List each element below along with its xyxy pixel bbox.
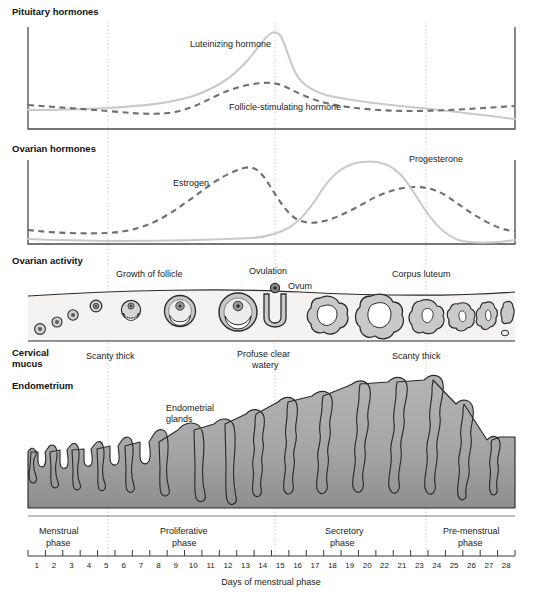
panel-title-cervical-mucus-line1: Cervical [12, 347, 49, 358]
pituitary-axis-frame [28, 27, 515, 129]
day-axis-tick-label: 20 [363, 561, 372, 570]
day-axis-tick-label: 8 [156, 561, 161, 570]
day-axis-tick-label: 2 [52, 561, 57, 570]
day-axis-tick-label: 10 [189, 561, 198, 570]
label-luteinizing-hormone: Luteinizing hormone [190, 39, 271, 49]
day-axis: 1234567891011121314151617181920222123242… [28, 550, 515, 587]
day-axis-tick-label: 7 [139, 561, 144, 570]
label-growth-of-follicle: Growth of follicle [116, 269, 183, 279]
label-estrogen: Estrogen [173, 178, 209, 188]
day-axis-tick-label: 5 [104, 561, 109, 570]
curve-estrogen [28, 167, 515, 233]
phase-label-proliferative-line1: Proliferative [160, 526, 208, 536]
phase-label-secretory-line2: phase [330, 538, 355, 548]
growing-follicle [165, 296, 196, 327]
day-axis-ticks [28, 550, 515, 556]
endometrium-tissue [28, 375, 515, 508]
day-axis-title: Days of menstrual phase [221, 577, 321, 587]
label-mucus-profuse-line2: watery [251, 360, 279, 370]
graafian-follicle [219, 293, 257, 331]
day-axis-tick-label: 14 [258, 561, 267, 570]
primordial-follicle-2 [52, 317, 62, 327]
day-axis-tick-label: 18 [328, 561, 337, 570]
menstrual-cycle-figure: Pituitary hormones Luteinizing hormone F… [0, 0, 534, 593]
panel-endometrium: Endometrium Endometrial glands [12, 375, 515, 508]
panel-title-cervical-mucus-line2: mucus [12, 358, 43, 369]
day-axis-tick-label: 26 [467, 561, 476, 570]
phase-band: Menstrual phase Proliferative phase Secr… [28, 516, 515, 548]
ovum [270, 283, 279, 292]
figure-canvas: Pituitary hormones Luteinizing hormone F… [0, 0, 534, 593]
panel-pituitary-hormones: Pituitary hormones Luteinizing hormone F… [12, 6, 515, 129]
primordial-follicle-1 [35, 324, 46, 335]
label-endometrial-glands-line1: Endometrial [166, 403, 214, 413]
secondary-follicle [121, 300, 140, 320]
day-axis-tick-label: 1 [34, 561, 39, 570]
panel-title-pituitary: Pituitary hormones [12, 6, 99, 17]
label-corpus-luteum: Corpus luteum [392, 269, 451, 279]
day-axis-tick-label: 13 [241, 561, 250, 570]
label-lh-line1: Luteinizing hormone [190, 39, 271, 49]
label-mucus-scanty-thick-early: Scanty thick [86, 351, 135, 361]
day-axis-tick-label: 19 [345, 561, 354, 570]
day-axis-tick-label: 3 [69, 561, 74, 570]
corpus-albicans-1 [447, 303, 475, 331]
day-axis-tick-label: 28 [502, 561, 511, 570]
curve-progesterone [28, 162, 515, 243]
day-axis-tick-label: 12 [224, 561, 233, 570]
panel-title-endometrium: Endometrium [12, 380, 73, 391]
panel-title-ovarian-hormones: Ovarian hormones [12, 143, 96, 154]
label-endometrial-glands-line2: glands [166, 414, 193, 424]
day-axis-tick-label: 16 [293, 561, 302, 570]
panel-title-ovarian-activity: Ovarian activity [12, 255, 83, 266]
panel-cervical-mucus: Cervical mucus Scanty thick Profuse clea… [12, 347, 441, 370]
day-axis-tick-label: 17 [311, 561, 320, 570]
day-axis-tick-label: 25 [450, 561, 459, 570]
primary-follicle-2 [90, 300, 102, 312]
day-axis-tick-label: 22 [380, 561, 389, 570]
day-axis-tick-label: 9 [174, 561, 179, 570]
day-axis-tick-label: 4 [87, 561, 92, 570]
panel-ovarian-hormones: Ovarian hormones Estrogen Progesterone [12, 143, 515, 244]
phase-label-proliferative-line2: phase [172, 538, 197, 548]
phase-label-pre-menstrual-line2: phase [458, 538, 483, 548]
label-follicle-stimulating-hormone: Follicle-stimulating hormone [229, 102, 341, 112]
phase-label-menstrual-line2: phase [46, 538, 71, 548]
phase-label-pre-menstrual-line1: Pre-menstrual [443, 526, 500, 536]
phase-label-menstrual-line1: Menstrual [39, 526, 79, 536]
day-axis-tick-label: 11 [206, 561, 215, 570]
day-axis-tick-label: 24 [432, 561, 441, 570]
primary-follicle-1 [68, 310, 78, 320]
label-ovulation: Ovulation [249, 266, 287, 276]
day-axis-tick-label: 23 [415, 561, 424, 570]
label-mucus-profuse-line1: Profuse clear [237, 349, 290, 359]
corpus-albicans-remnant [501, 330, 508, 336]
day-axis-tick-labels: 1234567891011121314151617181920222123242… [34, 561, 511, 570]
day-axis-tick-label: 15 [276, 561, 285, 570]
day-axis-tick-label: 27 [484, 561, 493, 570]
day-axis-tick-label: 6 [121, 561, 126, 570]
label-progesterone: Progesterone [409, 154, 463, 164]
phase-label-secretory-line1: Secretory [325, 526, 364, 536]
label-ovum: Ovum [288, 281, 312, 291]
ovarian-hormones-axis-frame [28, 160, 515, 244]
label-mucus-scanty-thick-late: Scanty thick [392, 351, 441, 361]
day-axis-tick-label: 21 [397, 561, 406, 570]
panel-ovarian-activity: Ovarian activity Growth of follicle Ovul… [12, 255, 515, 341]
label-fsh-line1: Follicle-stimulating hormone [229, 102, 341, 112]
